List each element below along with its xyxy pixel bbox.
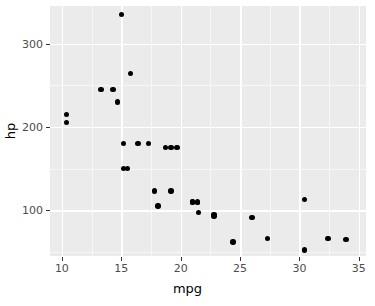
data-point — [249, 215, 254, 220]
data-point — [64, 120, 69, 125]
gridline-minor-horizontal — [50, 169, 366, 170]
x-tick-mark — [240, 257, 241, 261]
x-tick-mark — [62, 257, 63, 261]
data-point — [152, 188, 157, 193]
data-point — [196, 210, 201, 215]
data-point — [302, 247, 307, 252]
gridline-minor-horizontal — [50, 85, 366, 86]
x-tick-label: 25 — [233, 262, 247, 275]
x-tick-label: 10 — [55, 262, 69, 275]
data-point — [174, 145, 179, 150]
x-tick-mark — [121, 257, 122, 261]
data-point — [64, 112, 69, 117]
gridline-major-horizontal — [50, 44, 366, 46]
data-point — [343, 237, 348, 242]
data-point — [230, 239, 235, 244]
data-point — [325, 236, 330, 241]
x-tick-mark — [359, 257, 360, 261]
data-point — [195, 200, 200, 205]
x-tick-label: 15 — [114, 262, 128, 275]
y-tick-mark — [46, 127, 50, 128]
plot-panel — [50, 6, 366, 256]
data-point — [98, 87, 103, 92]
data-point — [168, 188, 173, 193]
gridline-major-horizontal — [50, 210, 366, 212]
gridline-major-horizontal — [50, 127, 366, 129]
x-axis-title: mpg — [0, 281, 375, 296]
y-axis-title: hp — [3, 123, 18, 140]
scatter-plot-figure: 101520253035 100200300 mpg hp — [0, 0, 375, 306]
data-point — [155, 203, 160, 208]
data-point — [302, 197, 307, 202]
data-point — [119, 12, 124, 17]
data-point — [121, 141, 126, 146]
data-point — [168, 145, 173, 150]
x-tick-label: 30 — [292, 262, 306, 275]
y-tick-label: 100 — [22, 204, 43, 217]
data-point — [128, 71, 133, 76]
y-tick-label: 300 — [22, 37, 43, 50]
data-point — [110, 87, 115, 92]
data-point — [211, 212, 216, 217]
x-tick-mark — [299, 257, 300, 261]
y-tick-mark — [46, 44, 50, 45]
y-tick-mark — [46, 210, 50, 211]
gridline-minor-horizontal — [50, 252, 366, 253]
data-point — [135, 141, 140, 146]
x-tick-label: 20 — [174, 262, 188, 275]
x-tick-label: 35 — [352, 262, 366, 275]
y-tick-label: 200 — [22, 120, 43, 133]
data-point — [163, 145, 168, 150]
x-tick-mark — [181, 257, 182, 261]
data-point — [115, 99, 120, 104]
